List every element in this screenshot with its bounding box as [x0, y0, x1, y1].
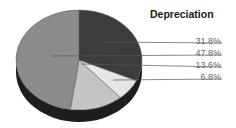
label-slice-4: 6.8%	[200, 72, 221, 82]
label-slice-3: 13.6%	[195, 60, 221, 70]
chart-title: Depreciation	[150, 8, 214, 20]
label-slice-2: 47.8%	[195, 48, 221, 58]
label-slice-1: 31.8%	[195, 36, 221, 46]
